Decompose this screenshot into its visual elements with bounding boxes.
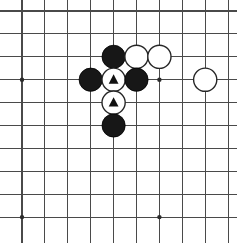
go-board-diagram [0, 0, 237, 243]
go-board-canvas[interactable] [0, 0, 237, 243]
star-point-lower-right [157, 215, 161, 219]
star-point-upper-left [20, 78, 24, 82]
black-stone-d4[interactable] [79, 68, 102, 91]
stones-group [79, 45, 217, 137]
grid-lines-vertical [22, 0, 228, 243]
star-point-lower-left [20, 215, 24, 219]
white-stone-h4[interactable] [194, 68, 217, 91]
grid-lines-horizontal [0, 11, 237, 217]
black-stone-f4[interactable] [125, 68, 148, 91]
black-stone-e3[interactable] [102, 45, 125, 68]
white-stone-g3[interactable] [148, 45, 171, 68]
white-stone-f3[interactable] [125, 45, 148, 68]
black-stone-e6[interactable] [102, 114, 125, 137]
star-point-upper-right [157, 78, 161, 82]
